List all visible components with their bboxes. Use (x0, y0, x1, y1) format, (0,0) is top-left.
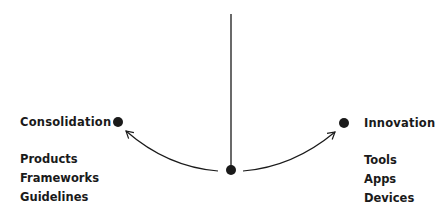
arrow-to-consolidation (126, 131, 218, 171)
list-item: Products (20, 150, 99, 169)
innovation-node (339, 118, 349, 128)
consolidation-node (113, 117, 123, 127)
list-item: Guidelines (20, 188, 99, 207)
origin-node (226, 165, 236, 175)
consolidation-list: Products Frameworks Guidelines (20, 150, 99, 207)
list-item: Frameworks (20, 169, 99, 188)
list-item: Tools (364, 151, 414, 170)
innovation-list: Tools Apps Devices (364, 151, 414, 208)
arrow-to-innovation (243, 132, 335, 171)
diagram-canvas: Consolidation Products Frameworks Guidel… (0, 0, 445, 217)
list-item: Devices (364, 189, 414, 208)
consolidation-label: Consolidation (20, 115, 111, 129)
list-item: Apps (364, 170, 414, 189)
innovation-label: Innovation (364, 116, 435, 130)
